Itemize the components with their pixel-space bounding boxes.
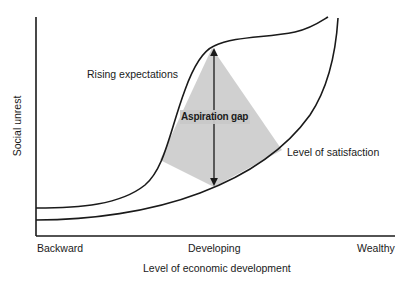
aspiration-gap-diagram: Social unrest Rising expectations Aspira… [0, 0, 412, 282]
x-tick-backward: Backward [37, 242, 83, 254]
x-axis-label: Level of economic development [143, 262, 291, 274]
level-of-satisfaction-label: Level of satisfaction [287, 146, 379, 158]
aspiration-gap-label: Aspiration gap [181, 111, 248, 122]
rising-expectations-label: Rising expectations [87, 68, 178, 80]
x-tick-wealthy: Wealthy [357, 242, 395, 254]
y-axis-label: Social unrest [11, 86, 23, 166]
diagram-canvas [0, 0, 412, 282]
x-tick-developing: Developing [188, 242, 241, 254]
